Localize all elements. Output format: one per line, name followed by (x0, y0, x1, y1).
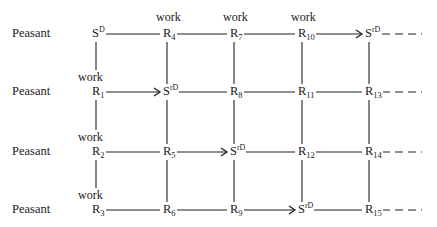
node-s-rd: SrD (229, 144, 246, 158)
row-label-peasant: Peasant (12, 144, 50, 158)
row-label-peasant: Peasant (12, 26, 50, 40)
node-r9: R9 (229, 202, 244, 216)
node-r12: R12 (297, 144, 316, 158)
work-label: work (156, 11, 181, 24)
node-s-rd: SrD (162, 84, 179, 98)
work-label: work (291, 11, 316, 24)
node-r3: R3 (91, 202, 106, 216)
node-r10: R10 (297, 26, 316, 40)
node-r14: R14 (364, 144, 383, 158)
node-r5: R5 (162, 144, 177, 158)
node-r8: R8 (229, 84, 244, 98)
node-r15: R15 (364, 202, 383, 216)
node-s-rd: SrD (364, 26, 381, 40)
node-r6: R6 (162, 202, 177, 216)
node-r4: R4 (162, 26, 177, 40)
node-s-rd: SrD (297, 202, 314, 216)
row-label-peasant: Peasant (12, 84, 50, 98)
work-label: work (78, 189, 103, 202)
row-label-peasant: Peasant (12, 202, 50, 216)
node-r13: R13 (364, 84, 383, 98)
node-r1: R1 (91, 84, 106, 98)
node-s-d: SD (91, 26, 106, 40)
node-r2: R2 (91, 144, 106, 158)
node-r11: R11 (297, 84, 316, 98)
work-label: work (78, 71, 103, 84)
work-label: work (223, 11, 248, 24)
node-r7: R7 (229, 26, 244, 40)
work-label: work (78, 131, 103, 144)
